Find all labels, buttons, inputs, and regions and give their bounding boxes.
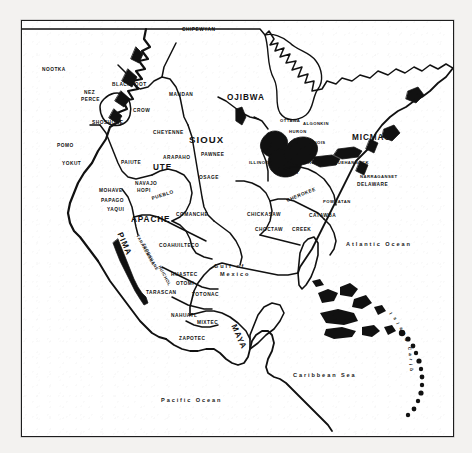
map-root: CHIPEWYANNOOTKABLACKFOOTNEZPERCEMANDANOJ…: [0, 0, 472, 453]
tribe-label-zapotec: ZAPOTEC: [179, 337, 205, 342]
tribe-label-nez-perce: NEZ: [84, 91, 95, 96]
tribe-label-yokut: YOKUT: [62, 162, 81, 167]
water-label-line: Atlantic Ocean: [346, 240, 412, 248]
tribe-label-iroquois: IROQUOIS: [301, 141, 326, 145]
tribe-label-crow: CROW: [133, 109, 150, 114]
tribe-label-fox: FOX: [271, 148, 281, 152]
tribe-label-creek: CREEK: [292, 228, 311, 233]
water-label-line: Pacific Ocean: [161, 396, 222, 404]
water-label-caribbean-sea: Caribbean Sea: [293, 371, 357, 379]
tribe-label-ute: UTE: [153, 164, 172, 172]
island-carib-letter: r: [408, 359, 413, 361]
water-label-gulf-of-mexico: Gulf ofMexico: [214, 262, 250, 278]
tribe-label-comanche: COMANCHE: [176, 213, 208, 218]
tribe-label-nez-perce-2: PERCE: [81, 98, 100, 103]
tribe-label-delaware: DELAWARE: [357, 183, 388, 188]
tribe-label-paiute: PAIUTE: [121, 161, 141, 166]
island-carib-letter: a: [408, 353, 413, 356]
tribe-label-chickasaw: CHICKASAW: [247, 213, 281, 218]
tribe-label-ojibwa: OJIBWA: [227, 94, 265, 102]
tribe-label-powhatan: POWHATAN: [323, 200, 351, 204]
island-carib-letter: C: [407, 347, 412, 351]
tribe-label-apache: APACHE: [131, 216, 170, 224]
map-coastlines: [22, 21, 453, 436]
tribe-label-ottawa: OTTAWA: [280, 119, 300, 123]
tribe-label-coahuilteco: COAHUILTECO: [159, 244, 199, 249]
tribe-label-mixtec: MIXTEC: [197, 321, 218, 326]
tribe-label-otomi: OTOMI: [176, 282, 194, 287]
tribe-label-chipewyan: CHIPEWYAN: [182, 28, 215, 33]
tribe-label-narraganset: NARRAGANSET: [360, 175, 398, 179]
tribe-label-illinois: ILLINOIS: [249, 161, 270, 165]
tribe-label-shoshone: SHOSHONE: [92, 121, 123, 126]
tribe-label-arapaho: ARAPAHO: [163, 156, 190, 161]
tribe-label-totonac: TOTONAC: [192, 293, 219, 298]
tribe-label-cheyenne: CHEYENNE: [153, 131, 184, 136]
tribe-label-blackfoot: BLACKFOOT: [112, 83, 147, 88]
tribe-label-sioux: SIOUX: [189, 135, 224, 145]
tribe-label-choctaw: CHOCTAW: [255, 228, 283, 233]
water-label-pacific-ocean: Pacific Ocean: [161, 396, 222, 404]
map-frame: CHIPEWYANNOOTKABLACKFOOTNEZPERCEMANDANOJ…: [21, 20, 454, 437]
tribe-label-huastec: HUASTEC: [171, 273, 198, 278]
tribe-label-osage: OSAGE: [199, 176, 219, 181]
tribe-label-tarascan: TARASCAN: [146, 291, 177, 296]
tribe-label-yaqui: YAQUI: [107, 208, 124, 213]
water-label-atlantic-ocean: Atlantic Ocean: [346, 240, 412, 248]
tribe-label-nahuatl: NAHUATL: [171, 314, 197, 319]
tribe-label-kickapoo: KICKAPOO: [269, 161, 299, 166]
water-label-line: Gulf of: [214, 262, 250, 270]
tribe-label-hopi: HOPI: [137, 189, 151, 194]
tribe-label-erie: ERIE: [304, 161, 317, 166]
tribe-label-nootka: NOOTKA: [42, 68, 66, 73]
tribe-label-algonkin: ALGONKIN: [303, 122, 329, 126]
tribe-label-miami: MIAMI: [282, 171, 299, 176]
tribe-label-papago: PAPAGO: [101, 199, 124, 204]
tribe-label-huron: HURON: [289, 130, 307, 134]
tribe-label-pomo: POMO: [57, 144, 74, 149]
tribe-label-susquehannock: SUSQUEHANNOCK: [324, 161, 369, 165]
water-label-line: Mexico: [220, 270, 250, 278]
tribe-label-catawba: CATAWBA: [309, 214, 336, 219]
tribe-label-pawnee: PAWNEE: [201, 153, 224, 158]
water-label-line: Caribbean Sea: [293, 371, 357, 379]
island-carib-letter: b: [409, 368, 414, 372]
tribe-label-mandan: MANDAN: [169, 93, 193, 98]
tribe-label-micmac: MICMAC: [352, 134, 391, 142]
tribe-label-mohave: MOHAVE: [99, 189, 123, 194]
tribe-label-navajo: NAVAJO: [135, 182, 157, 187]
